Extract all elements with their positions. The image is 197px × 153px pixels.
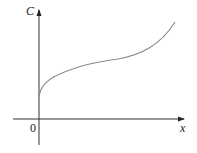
cost-curve — [39, 22, 175, 97]
x-axis-label: x — [180, 121, 185, 136]
origin-label: 0 — [30, 121, 36, 136]
y-axis-label: C — [26, 4, 34, 19]
graph-figure: C 0 x — [0, 0, 197, 153]
